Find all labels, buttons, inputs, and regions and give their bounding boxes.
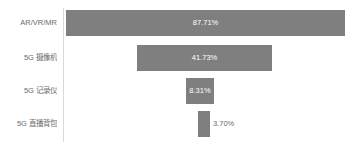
category-label: 5G 直播背包 bbox=[0, 111, 57, 137]
bar-wrap: 3.70% bbox=[198, 111, 210, 137]
chart-row: 5G 摄像机 41.73% bbox=[0, 45, 358, 71]
chart-row: 5G 直播背包 3.70% bbox=[0, 111, 358, 137]
chart-row: AR/VR/MR 87.71% bbox=[0, 10, 358, 36]
plot-area: AR/VR/MR 87.71% 5G 摄像机 41.73% 5G 记录仪 8.3… bbox=[0, 0, 358, 150]
bar-wrap: 87.71% bbox=[66, 10, 345, 36]
bar-chart: AR/VR/MR 87.71% 5G 摄像机 41.73% 5G 记录仪 8.3… bbox=[0, 0, 358, 150]
category-label: 5G 记录仪 bbox=[0, 78, 57, 104]
bar[interactable]: 8.31% bbox=[186, 78, 214, 104]
bar-value-label: 87.71% bbox=[66, 10, 345, 36]
category-label: AR/VR/MR bbox=[0, 10, 57, 36]
bar-wrap: 41.73% bbox=[137, 45, 272, 71]
bar[interactable] bbox=[198, 111, 210, 137]
bar-wrap: 8.31% bbox=[186, 78, 214, 104]
bar-value-label: 8.31% bbox=[186, 78, 214, 104]
bar-value-label: 41.73% bbox=[137, 45, 272, 71]
bar-value-label: 3.70% bbox=[210, 111, 234, 137]
chart-row: 5G 记录仪 8.31% bbox=[0, 78, 358, 104]
category-label: 5G 摄像机 bbox=[0, 45, 57, 71]
bar[interactable]: 87.71% bbox=[66, 10, 345, 36]
bar[interactable]: 41.73% bbox=[137, 45, 272, 71]
